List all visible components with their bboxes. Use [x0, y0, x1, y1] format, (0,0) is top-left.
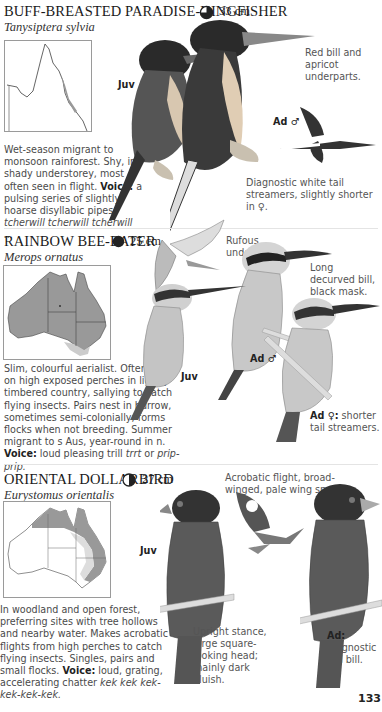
annotation-ad: Ad:diagnostic red bill. — [327, 630, 379, 666]
annotation-tail: Diagnostic white tail streamers, slightl… — [246, 177, 381, 213]
juv-label: Juv — [118, 79, 135, 90]
annotation-bill: Red bill and apricot underparts. — [305, 47, 377, 83]
range-map-dollarbird — [3, 501, 111, 598]
juv-label: Juv — [181, 371, 198, 382]
juv-label: Juv — [140, 545, 157, 556]
section-divider — [4, 464, 378, 465]
dollarbird-flight-illustration — [234, 488, 304, 558]
bee-eater-juvenile-illustration — [128, 276, 248, 426]
range-map-kingfisher — [4, 40, 92, 132]
scientific-name: Tanysiptera sylvia — [4, 20, 95, 35]
annotation-ad-female: Ad ♀: shorter tail streamers. — [310, 410, 382, 434]
annotation-stance: Upright stance, large square-looking hea… — [193, 626, 273, 686]
half-circle-icon — [122, 473, 136, 487]
species-size: 27 cm — [142, 472, 173, 487]
species-description: In woodland and open forest, preferring … — [0, 604, 172, 702]
full-circle-icon — [112, 235, 125, 248]
kingfisher-flight-illustration — [280, 105, 380, 165]
page-number: 133 — [358, 692, 381, 705]
scientific-name: Merops ornatus — [4, 250, 83, 265]
range-map-bee-eater — [3, 265, 111, 360]
